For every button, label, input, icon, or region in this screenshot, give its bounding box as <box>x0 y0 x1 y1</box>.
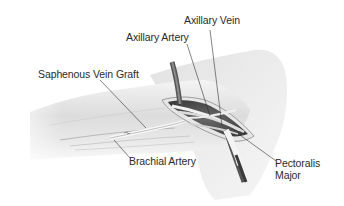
label-pectoralis-line1: Pectoralis <box>275 157 320 169</box>
label-brachial-artery: Brachial Artery <box>129 155 196 167</box>
label-axillary-vein: Axillary Vein <box>184 14 240 26</box>
label-pectoralis-line2: Major <box>275 169 320 181</box>
label-saphenous-vein-graft: Saphenous Vein Graft <box>38 68 139 80</box>
label-pectoralis-major: Pectoralis Major <box>275 157 320 181</box>
anatomical-diagram: Axillary Vein Axillary Artery Saphenous … <box>0 0 344 206</box>
label-axillary-artery: Axillary Artery <box>126 31 189 43</box>
